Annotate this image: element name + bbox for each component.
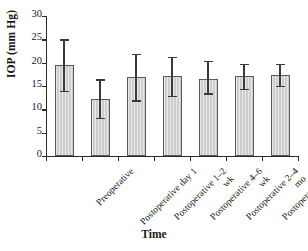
error-bar-stem [279,64,280,86]
x-tick-mark [46,156,47,161]
y-tick-label: 10 [32,101,43,112]
error-bar-cap-upper [240,64,249,65]
error-bar-cap-upper [60,39,69,40]
y-tick-label: 0 [37,148,42,159]
plot-area: 051015202530 PreoperativePostoperative d… [46,16,298,156]
x-tick-mark [82,156,83,161]
error-bar-stem [207,61,208,93]
y-axis-title: IOP (mm Hg) [5,0,17,99]
error-bar-cap-upper [168,57,177,58]
error-bar-stem [63,39,64,90]
chart-figure: IOP (mm Hg) Time 051015202530 Preoperati… [0,0,308,251]
x-axis-line [46,156,298,157]
x-category-label: Preoperative [94,166,136,208]
y-tick-mark [42,16,46,17]
y-tick-label: 30 [32,8,43,19]
error-bar-cap-lower [204,93,213,94]
y-tick-mark [42,39,46,40]
error-bar-cap-upper [132,54,141,55]
error-bar-cap-upper [204,61,213,62]
error-bar-cap-lower [168,96,177,97]
error-bar-stem [135,54,136,100]
y-tick-mark [42,109,46,110]
y-tick-label: 25 [32,31,43,42]
error-bar-stem [171,57,172,96]
x-axis-title: Time [0,228,308,240]
y-tick-label: 5 [37,125,42,136]
y-tick-label: 20 [32,55,43,66]
error-bar-cap-upper [96,79,105,80]
error-bar-stem [243,64,244,89]
x-tick-mark [118,156,119,161]
error-bar-stem [99,79,100,118]
error-bar-cap-upper [276,64,285,65]
y-tick-mark [42,86,46,87]
x-tick-mark [226,156,227,161]
y-tick-label: 15 [32,78,43,89]
error-bar-cap-lower [96,118,105,119]
error-bar-cap-lower [132,100,141,101]
x-tick-mark [154,156,155,161]
y-tick-mark [42,63,46,64]
x-tick-mark [298,156,299,161]
y-axis-line [46,16,47,156]
x-tick-mark [262,156,263,161]
error-bar-cap-lower [60,91,69,92]
y-tick-mark [42,133,46,134]
x-tick-mark [190,156,191,161]
x-category-label-line1: Preoperative [93,165,135,207]
error-bar-cap-lower [240,89,249,90]
error-bar-cap-lower [276,86,285,87]
